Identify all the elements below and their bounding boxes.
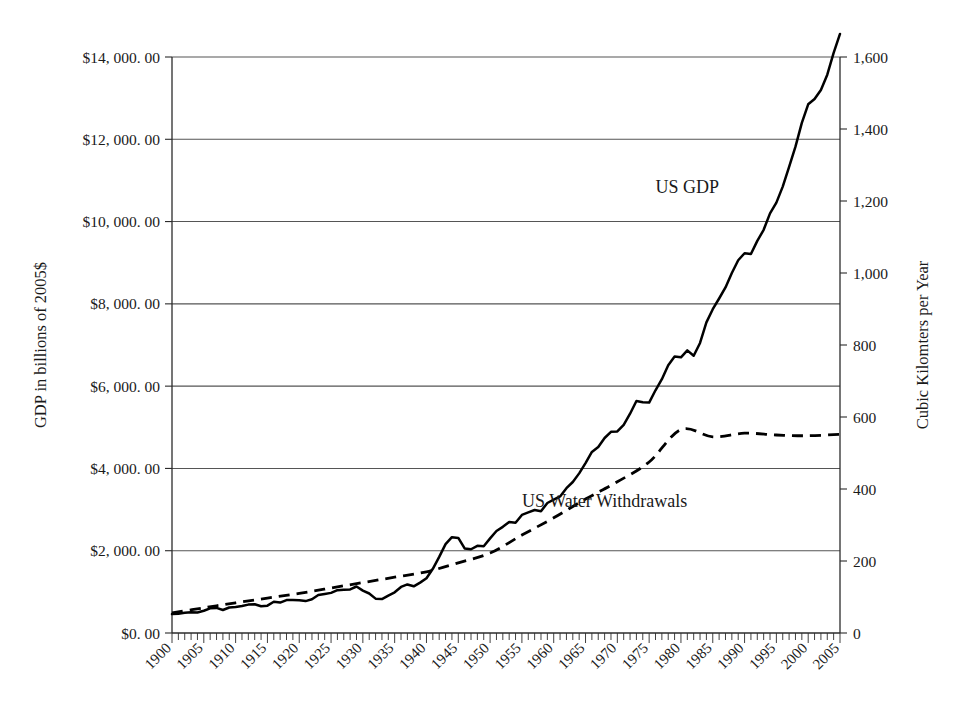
- left-tick-label: $0. 00: [121, 625, 160, 642]
- right-tick-label: 1,000: [853, 265, 888, 282]
- left-tick-label: $2, 000. 00: [90, 542, 160, 559]
- left-axis-title: GDP in billions of 2005$: [31, 262, 50, 428]
- right-tick-label: 1,600: [853, 49, 888, 66]
- left-tick-label: $14, 000. 00: [83, 49, 161, 66]
- right-tick-label: 1,400: [853, 121, 888, 138]
- series-annotation-us-water-withdrawals: US Water Withdrawals: [522, 491, 687, 511]
- left-tick-label: $10, 000. 00: [83, 213, 161, 230]
- right-axis-title: Cubic Kilomters per Year: [913, 260, 932, 429]
- series-annotation-us-gdp: US GDP: [656, 177, 720, 197]
- right-tick-label: 600: [853, 409, 877, 426]
- chart-canvas: $0. 00$2, 000. 00$4, 000. 00$6, 000. 00$…: [0, 0, 965, 720]
- right-tick-label: 800: [853, 337, 877, 354]
- left-tick-label: $4, 000. 00: [90, 460, 160, 477]
- right-tick-label: 400: [853, 481, 877, 498]
- left-tick-label: $6, 000. 00: [90, 378, 160, 395]
- left-tick-label: $12, 000. 00: [83, 131, 161, 148]
- right-tick-label: 0: [853, 625, 861, 642]
- left-tick-label: $8, 000. 00: [90, 295, 160, 312]
- chart-figure: $0. 00$2, 000. 00$4, 000. 00$6, 000. 00$…: [0, 0, 965, 720]
- right-tick-label: 200: [853, 553, 877, 570]
- chart-background: [0, 0, 965, 720]
- right-tick-label: 1,200: [853, 193, 888, 210]
